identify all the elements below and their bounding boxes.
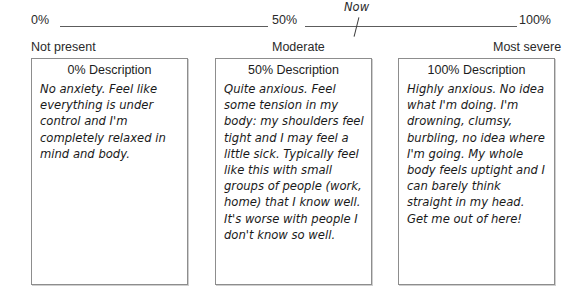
scale-tick-label-0: 0% <box>31 13 49 27</box>
description-box-50: 50% Description Quite anxious. Feel some… <box>215 58 372 285</box>
description-header-50: 50% Description <box>216 59 371 78</box>
now-marker-tick-line <box>354 17 360 37</box>
scale-tick-label-50: 50% <box>272 13 297 27</box>
scale-line-right-segment <box>305 26 517 27</box>
description-box-0: 0% Description No anxiety. Feel like eve… <box>31 58 188 285</box>
description-header-0: 0% Description <box>32 59 187 78</box>
description-box-100: 100% Description Highly anxious. No idea… <box>398 58 555 285</box>
description-body-0: No anxiety. Feel like everything is unde… <box>32 78 187 162</box>
anchor-label-not-present: Not present <box>31 40 96 55</box>
now-marker-tick[interactable] <box>351 17 363 37</box>
severity-scale: 0% 50% 100% Now <box>0 0 582 36</box>
scale-line-left-segment <box>60 26 268 27</box>
description-header-100: 100% Description <box>399 59 554 78</box>
description-body-50: Quite anxious. Feel some tension in my b… <box>216 78 371 243</box>
anchor-label-moderate: Moderate <box>272 40 325 55</box>
scale-tick-label-100: 100% <box>519 13 551 27</box>
anchor-label-most-severe: Most severe <box>493 40 561 55</box>
description-body-100: Highly anxious. No idea what I'm doing. … <box>399 78 554 227</box>
now-marker-label: Now <box>344 0 369 14</box>
